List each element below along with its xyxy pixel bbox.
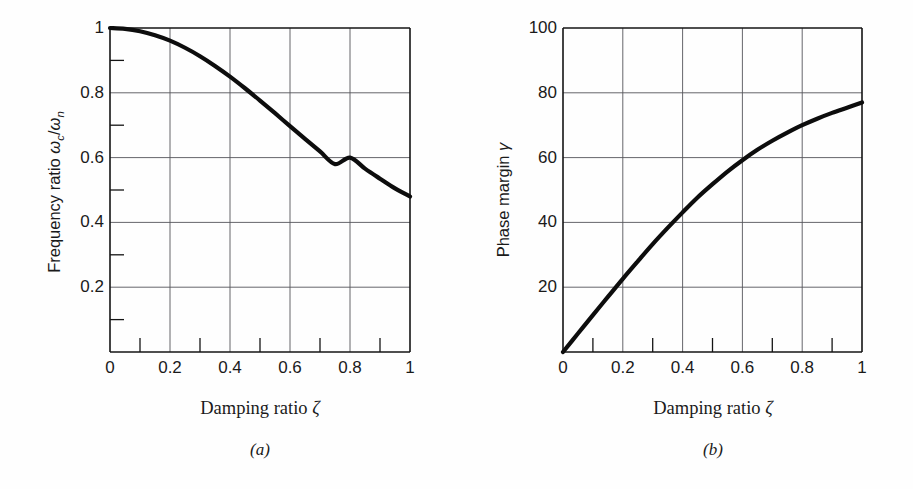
axis-frame-a (110, 28, 410, 352)
figure-container: 1 0.8 0.6 0.4 0.2 0 0.2 0.4 0.6 0.8 1 Fr… (0, 0, 913, 489)
chart-panel-b: 100 80 60 40 20 0 0.2 0.4 0.6 0.8 1 Phas… (457, 0, 913, 489)
axis-frame-b (563, 28, 862, 352)
chart-svg-b (457, 0, 913, 489)
gridlines-b (563, 28, 862, 352)
chart-panel-a: 1 0.8 0.6 0.4 0.2 0 0.2 0.4 0.6 0.8 1 Fr… (0, 0, 456, 489)
x-minor-ticks-b (593, 338, 832, 352)
data-curve-a (110, 28, 410, 196)
data-curve-b (563, 103, 862, 352)
y-minor-ticks-a (110, 60, 124, 319)
chart-svg-a (0, 0, 456, 489)
x-minor-ticks-a (140, 338, 380, 352)
gridlines-a (110, 28, 410, 352)
